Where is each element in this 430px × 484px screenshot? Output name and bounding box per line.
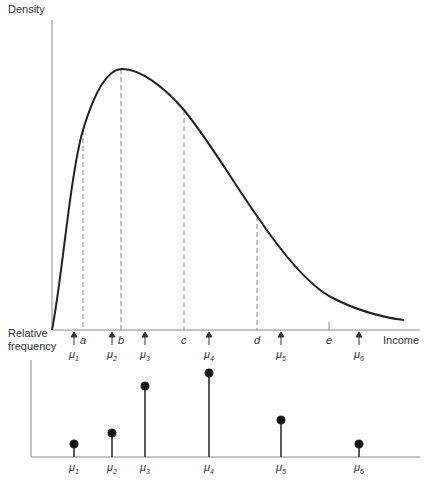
dashed-guides [83, 69, 257, 330]
income-density-diagram: Density a b c d e Income μ1 μ2 μ3 μ4 μ5 … [0, 0, 430, 484]
mu3-label: μ3 [139, 348, 150, 362]
label-c: c [181, 334, 187, 346]
stem-mu2-label: μ2 [106, 461, 117, 475]
density-axis-label: Density [8, 3, 45, 15]
relative-label-line2: frequency [8, 340, 57, 352]
density-curve [52, 69, 404, 330]
stem-mu6-label: μ6 [353, 461, 364, 475]
frequency-stems [70, 369, 363, 457]
mu5-label: μ5 [275, 348, 286, 362]
income-axis-label: Income [383, 334, 419, 346]
label-a: a [80, 334, 86, 346]
mu2-label: μ2 [106, 348, 117, 362]
stem-mu5-label: μ5 [275, 461, 286, 475]
mu1-label: μ1 [68, 348, 79, 362]
stem-mu3-label: μ3 [139, 461, 150, 475]
mu6-label: μ6 [353, 348, 364, 362]
relative-label-line1: Relative [8, 327, 48, 339]
mu4-label: μ4 [203, 348, 214, 362]
label-e: e [326, 334, 332, 346]
top-mean-labels: μ1 μ2 μ3 μ4 μ5 μ6 [68, 348, 364, 362]
bottom-mean-labels: μ1 μ2 μ3 μ4 μ5 μ6 [68, 461, 364, 475]
label-d: d [254, 334, 261, 346]
label-b: b [118, 334, 124, 346]
mean-arrows [71, 332, 362, 345]
stem-mu4-label: μ4 [203, 461, 214, 475]
stem-mu1-label: μ1 [68, 461, 79, 475]
